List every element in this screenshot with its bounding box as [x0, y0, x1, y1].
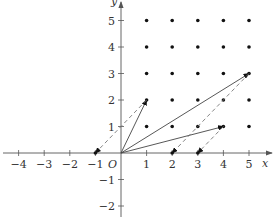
vector-endpoint — [196, 151, 200, 155]
lattice-point — [145, 19, 149, 23]
dashed-vector — [172, 74, 249, 154]
coordinate-diagram: −4−3−2−112345−2−112345xyO — [0, 0, 275, 218]
lattice-point — [222, 72, 226, 76]
lattice-point — [170, 19, 174, 23]
y-tick-label: 3 — [108, 68, 115, 81]
y-tick-label: 5 — [108, 15, 115, 28]
y-tick-label: −2 — [99, 200, 115, 213]
x-tick-label: 3 — [194, 158, 201, 171]
axes — [3, 2, 272, 217]
x-tick-label: −2 — [62, 158, 78, 171]
lattice-point — [247, 98, 251, 102]
lattice-point — [196, 72, 200, 76]
vector-endpoint — [170, 151, 174, 155]
lattice-point — [247, 45, 251, 49]
lattice-point — [170, 45, 174, 49]
y-tick-label: −1 — [99, 174, 115, 187]
x-axis-label: x — [262, 157, 269, 170]
vectors — [94, 74, 249, 155]
vector-endpoint — [94, 151, 98, 155]
lattice-point — [196, 98, 200, 102]
x-tick-label: 2 — [169, 158, 176, 171]
x-tick-label: −4 — [10, 158, 26, 171]
x-tick-label: −1 — [87, 158, 103, 171]
y-tick-label: 4 — [108, 41, 115, 54]
x-tick-label: −3 — [36, 158, 52, 171]
y-tick-label: 2 — [108, 94, 115, 107]
lattice-point — [170, 98, 174, 102]
lattice-point — [196, 45, 200, 49]
y-axis-label: y — [110, 0, 118, 8]
lattice-point — [247, 19, 251, 23]
lattice-point — [222, 19, 226, 23]
lattice-point — [170, 72, 174, 76]
lattice-points — [145, 19, 251, 129]
lattice-point — [145, 45, 149, 49]
lattice-point — [196, 19, 200, 23]
lattice-point — [145, 72, 149, 76]
lattice-point — [145, 125, 149, 129]
lattice-point — [247, 125, 251, 129]
x-tick-label: 5 — [246, 158, 253, 171]
lattice-point — [170, 125, 174, 129]
origin-label: O — [108, 158, 117, 171]
y-tick-label: 1 — [108, 121, 115, 134]
x-tick-label: 1 — [143, 158, 150, 171]
lattice-point — [222, 45, 226, 49]
solid-vector — [121, 127, 223, 154]
x-tick-label: 4 — [220, 158, 227, 171]
dashed-vector — [198, 127, 224, 154]
